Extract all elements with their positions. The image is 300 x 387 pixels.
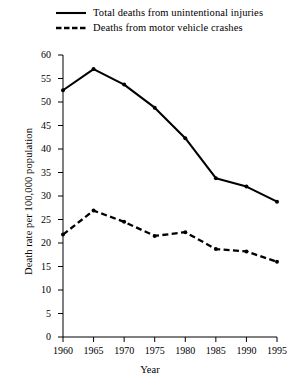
data-point-marker — [275, 260, 279, 264]
data-point-marker — [275, 200, 279, 204]
x-tick-label: 1990 — [229, 345, 263, 356]
data-point-marker — [214, 247, 218, 251]
x-tick-label: 1970 — [107, 345, 141, 356]
data-point-marker — [244, 249, 248, 253]
data-point-marker — [153, 234, 157, 238]
data-point-marker — [214, 176, 218, 180]
x-tick-label: 1965 — [77, 345, 111, 356]
x-tick-label: 1975 — [138, 345, 172, 356]
axis-lines — [63, 55, 277, 337]
x-axis-ticks — [63, 337, 277, 342]
data-point-marker — [153, 106, 157, 110]
x-tick-label: 1980 — [168, 345, 202, 356]
y-axis-title: Death rate per 100,000 population — [23, 97, 34, 307]
x-tick-label: 1995 — [260, 345, 294, 356]
data-point-marker — [92, 67, 96, 71]
data-point-marker — [61, 88, 65, 92]
data-point-marker — [122, 83, 126, 87]
y-tick-label: 0 — [29, 331, 51, 342]
y-tick-label: 55 — [29, 73, 51, 84]
y-tick-label: 5 — [29, 308, 51, 319]
x-axis-title: Year — [0, 364, 300, 375]
series-line-1 — [63, 69, 277, 202]
data-point-marker — [122, 220, 126, 224]
x-tick-label: 1985 — [199, 345, 233, 356]
series-line-2 — [63, 211, 277, 262]
y-axis-ticks — [58, 55, 63, 337]
data-point-marker — [183, 136, 187, 140]
chart-figure: Total deaths from unintentional injuries… — [0, 0, 300, 387]
data-point-marker — [244, 185, 248, 189]
data-point-marker — [92, 209, 96, 213]
x-tick-label: 1960 — [46, 345, 80, 356]
data-series-layer — [61, 67, 279, 264]
y-tick-label: 60 — [29, 49, 51, 60]
data-point-marker — [61, 233, 65, 237]
data-point-marker — [183, 230, 187, 234]
